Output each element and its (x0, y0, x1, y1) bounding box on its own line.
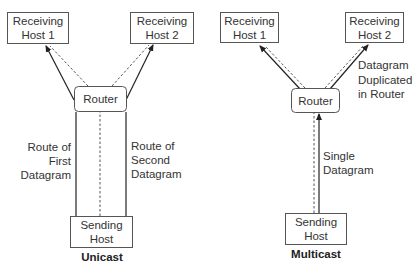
label: Host (90, 233, 114, 245)
label: Receiving (224, 15, 275, 27)
multicast-sending-host: Sending Host (286, 214, 347, 245)
label: Receiving (349, 15, 400, 27)
svg-text:Datagram: Datagram (21, 169, 72, 181)
multicast-dotted-to-host1 (265, 46, 305, 88)
multicast-router: Router (292, 89, 340, 113)
multicast-caption: Multicast (291, 248, 341, 260)
multicast-duplicated-note: Datagram Duplicated in Router (358, 59, 412, 100)
unicast-receiving-host-1: Receiving Host 1 (8, 13, 69, 44)
label: Receiving (13, 15, 64, 27)
svg-text:Datagram: Datagram (358, 59, 409, 71)
unicast-multicast-diagram: Receiving Host 1 Receiving Host 2 Router… (0, 0, 419, 272)
svg-text:First: First (49, 155, 72, 167)
multicast-panel: Receiving Host 1 Receiving Host 2 Router… (221, 13, 413, 261)
multicast-arrow-to-host1 (260, 46, 300, 89)
svg-text:Datagram: Datagram (323, 164, 374, 176)
unicast-arrow-to-host2 (126, 45, 153, 100)
unicast-receiving-host-2: Receiving Host 2 (131, 13, 194, 44)
label: Host 2 (145, 29, 178, 41)
svg-text:Single: Single (323, 150, 355, 162)
label: Sending (80, 219, 122, 231)
unicast-router: Router (75, 87, 127, 112)
multicast-receiving-host-2: Receiving Host 2 (346, 13, 404, 43)
svg-text:Route of: Route of (131, 140, 175, 152)
label: Host 1 (21, 29, 54, 41)
label: Host 2 (358, 29, 391, 41)
label: Host 1 (233, 29, 266, 41)
unicast-panel: Receiving Host 1 Receiving Host 2 Router… (8, 13, 194, 264)
svg-text:Second: Second (131, 154, 170, 166)
svg-text:Route of: Route of (28, 141, 72, 153)
svg-text:Duplicated: Duplicated (358, 74, 412, 86)
unicast-caption: Unicast (81, 251, 123, 263)
label: Sending (295, 216, 337, 228)
label: Router (83, 93, 118, 105)
multicast-single-datagram-note: Single Datagram (323, 150, 374, 176)
unicast-route-second-label: Route of Second Datagram (131, 140, 182, 180)
label: Receiving (137, 15, 188, 27)
unicast-arrow-to-host1 (46, 46, 74, 100)
svg-text:Datagram: Datagram (131, 168, 182, 180)
label: Router (298, 95, 333, 107)
unicast-route-first-label: Route of First Datagram (21, 141, 72, 181)
svg-text:in Router: in Router (358, 88, 405, 100)
multicast-receiving-host-1: Receiving Host 1 (221, 13, 279, 43)
unicast-sending-host: Sending Host (71, 217, 133, 248)
label: Host (304, 230, 328, 242)
